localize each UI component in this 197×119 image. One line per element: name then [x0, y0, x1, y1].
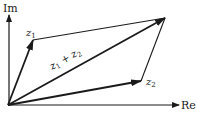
svg-text:z1+z2: z1+z2 — [47, 46, 84, 74]
z2-label: z2 — [145, 76, 156, 89]
real-axis-label: Re — [181, 99, 196, 112]
z1-label: z1 — [25, 27, 36, 40]
edge-z2-to-sum — [141, 18, 165, 81]
vector-z1 — [8, 40, 33, 105]
diagram-canvas: Im Re z1 z2 z1+z2 — [0, 0, 197, 119]
complex-plane-diagram: Im Re z1 z2 z1+z2 — [0, 0, 197, 119]
sum-label: z1+z2 — [47, 46, 84, 74]
imaginary-axis-label: Im — [3, 2, 18, 15]
